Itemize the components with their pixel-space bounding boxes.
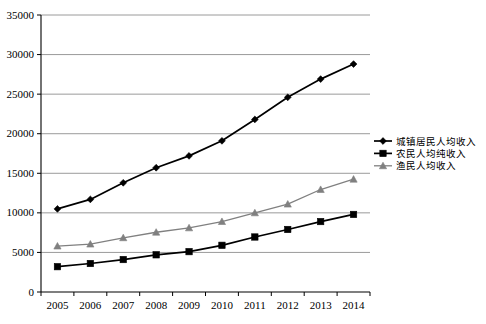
x-axis-tick-label: 2009	[178, 299, 201, 311]
y-axis-tick-label: 10000	[7, 206, 35, 218]
y-axis-tick-label: 25000	[7, 88, 35, 100]
x-axis-tick-label: 2005	[46, 299, 69, 311]
x-axis-tick-label: 2014	[343, 299, 366, 311]
y-axis-tick-label: 20000	[7, 127, 35, 139]
data-point-square-marker	[54, 263, 60, 269]
data-point-square-marker	[350, 211, 356, 217]
data-point-square-marker	[153, 252, 159, 258]
legend-item-label: 城镇居民人均收入	[396, 136, 476, 147]
chart-container: 05000100001500020000250003000035000 2005…	[0, 0, 486, 324]
x-axis-tick-label: 2011	[244, 299, 266, 311]
x-axis-tick-label: 2010	[211, 299, 234, 311]
data-point-square-marker	[317, 218, 323, 224]
x-axis-tick-label: 2006	[79, 299, 102, 311]
data-point-square-marker	[380, 150, 386, 156]
y-axis-tick-label: 15000	[7, 167, 35, 179]
data-point-square-marker	[87, 260, 93, 266]
data-point-square-marker	[285, 226, 291, 232]
legend-item-label: 渔民人均收入	[396, 160, 456, 171]
y-axis-tick-label: 5000	[12, 246, 35, 258]
x-axis-tick-label: 2012	[277, 299, 299, 311]
x-axis-tick-label: 2013	[310, 299, 333, 311]
data-point-square-marker	[186, 248, 192, 254]
data-point-square-marker	[120, 256, 126, 262]
data-point-square-marker	[252, 234, 258, 240]
line-chart: 05000100001500020000250003000035000 2005…	[0, 0, 486, 324]
legend-item-label: 农民人均纯收入	[396, 148, 466, 159]
y-axis-tick-label: 35000	[7, 9, 35, 21]
y-axis-tick-label: 0	[29, 286, 35, 298]
x-axis-tick-label: 2008	[145, 299, 168, 311]
y-axis-tick-label: 30000	[7, 48, 35, 60]
x-axis-tick-label: 2007	[112, 299, 135, 311]
data-point-square-marker	[219, 242, 225, 248]
